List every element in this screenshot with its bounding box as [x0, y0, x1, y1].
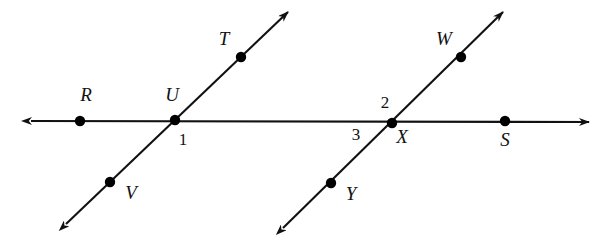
- points-layer: [75, 52, 510, 188]
- point-label-y: Y: [346, 183, 359, 204]
- point-label-t: T: [219, 28, 231, 49]
- diagram-canvas: RUTVXWYS 123: [0, 0, 609, 243]
- geometry-diagram: RUTVXWYS 123: [0, 0, 609, 243]
- point-s: [500, 116, 510, 126]
- point-label-x: X: [395, 126, 409, 147]
- angle-label-3: 3: [352, 125, 361, 144]
- angle-label-1: 1: [179, 130, 188, 149]
- point-y: [326, 178, 336, 188]
- point-labels-layer: RUTVXWYS: [79, 28, 510, 204]
- point-t: [236, 52, 246, 62]
- point-label-v: V: [125, 182, 139, 203]
- point-label-r: R: [79, 84, 92, 105]
- point-label-w: W: [436, 28, 454, 49]
- point-label-u: U: [165, 84, 180, 105]
- point-r: [75, 116, 85, 126]
- angle-label-2: 2: [381, 93, 390, 112]
- point-w: [456, 52, 466, 62]
- point-u: [170, 115, 180, 125]
- point-label-s: S: [500, 129, 510, 150]
- point-v: [105, 177, 115, 187]
